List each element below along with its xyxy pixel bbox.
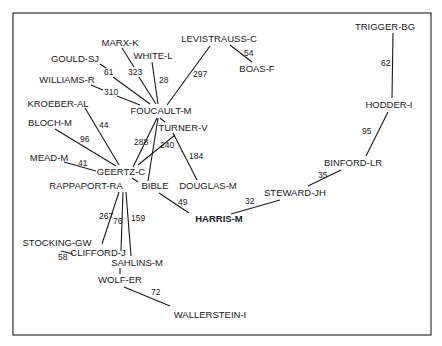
edge-weight-label: 310 xyxy=(104,87,118,97)
node-bible: BIBLE xyxy=(142,180,169,191)
node-hodder-i: HODDER-I xyxy=(366,99,413,110)
edge-weight-label: 96 xyxy=(80,134,90,144)
node-wallerstein-i: WALLERSTEIN-I xyxy=(174,309,247,320)
edge xyxy=(152,62,158,104)
node-harris-m: HARRIS-M xyxy=(195,213,243,224)
edge-weight-label: 58 xyxy=(58,252,68,262)
node-rappaport-ra: RAPPAPORT-RA xyxy=(49,180,123,191)
edge xyxy=(122,48,134,67)
edge-weight-label: 49 xyxy=(178,197,188,207)
edge xyxy=(91,85,103,90)
edge xyxy=(132,178,138,182)
edge xyxy=(231,200,280,214)
edge xyxy=(85,108,119,165)
edge-weight-label: 61 xyxy=(104,67,114,77)
edge xyxy=(392,33,393,98)
edge-weight-label: 95 xyxy=(362,126,372,136)
edge-weight-label: 41 xyxy=(78,158,88,168)
node-bloch-m: BLOCH-M xyxy=(28,117,72,128)
node-sahlins-m: SAHLINS-M xyxy=(111,257,163,268)
node-turner-v: TURNER-V xyxy=(158,122,208,133)
node-boas-f: BOAS-F xyxy=(239,63,275,74)
edge-weight-label: 184 xyxy=(189,151,203,161)
node-foucault-m: FOUCAULT-M xyxy=(130,105,191,116)
edge-weight-label: 32 xyxy=(245,196,255,206)
node-douglas-m: DOUGLAS-M xyxy=(179,180,237,191)
edge xyxy=(124,287,170,306)
edge-weight-label: 44 xyxy=(99,120,109,130)
edge-weight-label: 72 xyxy=(151,287,161,297)
edge xyxy=(113,77,150,104)
node-wolf-er: WOLF-ER xyxy=(98,274,142,285)
edge xyxy=(117,96,140,105)
edge-weight-label: 35 xyxy=(318,170,328,180)
edge-weight-label: 54 xyxy=(244,48,254,58)
edge-weight-label: 62 xyxy=(381,58,391,68)
node-geertz-c: GEERTZ-C xyxy=(97,166,146,177)
edge-weight-label: 267 xyxy=(99,211,113,221)
node-kroeber-al: KROEBER-AL xyxy=(27,98,88,109)
node-steward-jh: STEWARD-JH xyxy=(264,187,326,198)
edge-weight-label: 28 xyxy=(159,75,169,85)
node-white-l: WHITE-L xyxy=(133,50,172,61)
edge-weight-label: 323 xyxy=(128,67,142,77)
node-levistrauss-c: LEVISTRAUSS-C xyxy=(181,33,257,44)
node-binford-lr: BINFORD-LR xyxy=(324,157,382,168)
network-diagram: 6295353249542973232861310449641288240184… xyxy=(0,0,442,346)
node-gould-sj: GOULD-SJ xyxy=(51,53,99,64)
node-trigger-bg: TRIGGER-BG xyxy=(355,21,415,32)
node-layer: TRIGGER-BGHODDER-IBINFORD-LRSTEWARD-JHHA… xyxy=(23,21,416,320)
edge xyxy=(139,77,156,104)
edge xyxy=(126,192,131,256)
edge-weight-label: 297 xyxy=(193,69,207,79)
node-marx-k: MARX-K xyxy=(102,37,140,48)
node-mead-m: MEAD-M xyxy=(30,152,69,163)
node-williams-r: WILLIAMS-R xyxy=(39,74,95,85)
edge-weight-label: 76 xyxy=(113,216,123,226)
edge-weight-label: 288 xyxy=(134,137,148,147)
edge-weight-label: 240 xyxy=(160,140,174,150)
edge-weight-label: 159 xyxy=(131,213,145,223)
